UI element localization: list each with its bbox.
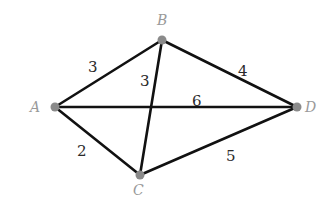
weight-a-b: 3: [88, 58, 98, 76]
weight-c-d: 5: [226, 147, 236, 165]
weight-a-d: 6: [192, 92, 202, 110]
node-a: [51, 103, 60, 112]
node-c: [136, 171, 145, 180]
node-b: [158, 36, 167, 45]
edge-c-d: [140, 107, 297, 175]
edge-a-c: [55, 107, 140, 175]
weight-b-c: 3: [140, 72, 150, 90]
node-label-c: C: [133, 182, 144, 198]
weight-a-c: 2: [77, 142, 87, 160]
node-d: [293, 103, 302, 112]
node-label-a: A: [28, 99, 40, 115]
node-label-b: B: [156, 12, 167, 28]
node-label-d: D: [304, 99, 316, 115]
weight-b-d: 4: [238, 62, 248, 80]
graph-diagram: 3 3 4 6 2 5 A B C D: [0, 0, 330, 199]
edge-b-d: [162, 40, 297, 107]
